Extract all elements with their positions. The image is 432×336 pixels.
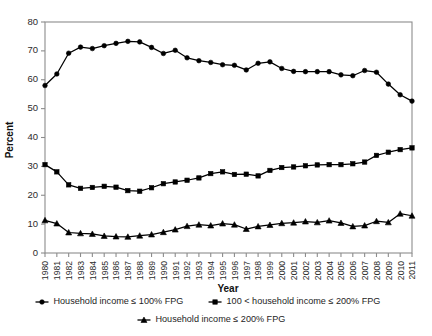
x-axis-ticks: 1980198119821983198419851986198719881989… (40, 253, 417, 280)
y-tick-label: 20 (27, 189, 38, 200)
data-point (220, 62, 225, 67)
data-point (362, 68, 367, 73)
legend-item[interactable]: Household income ≤ 100% FPG (36, 296, 184, 306)
x-tick-label: 2010 (396, 261, 406, 280)
x-tick-label: 1984 (88, 261, 98, 280)
legend-label: 100 < household income ≤ 200% FPG (227, 296, 381, 306)
data-point (137, 40, 142, 45)
data-point (256, 174, 260, 178)
legend-label: Household income ≤ 200% FPG (155, 314, 285, 324)
data-point (398, 147, 402, 151)
data-point (374, 153, 378, 157)
data-point (90, 46, 95, 51)
x-tick-label: 2003 (313, 261, 323, 280)
data-point (208, 60, 213, 65)
x-tick-label: 1980 (40, 261, 50, 280)
data-point (161, 182, 165, 186)
x-tick-label: 2008 (372, 261, 382, 280)
x-tick-label: 2002 (301, 261, 311, 280)
data-point (256, 61, 261, 66)
x-tick-label: 1998 (253, 261, 263, 280)
data-point (43, 83, 48, 88)
data-point (351, 73, 356, 78)
data-point (78, 45, 83, 50)
data-point (173, 48, 178, 53)
y-tick-label: 60 (27, 73, 38, 84)
data-point (197, 176, 201, 180)
data-point (138, 189, 142, 193)
x-tick-label: 2001 (289, 261, 299, 280)
data-point (126, 39, 131, 44)
data-point (315, 163, 319, 167)
x-tick-label: 2004 (325, 261, 335, 280)
legend-item[interactable]: 100 < household income ≤ 200% FPG (209, 296, 381, 306)
data-point (66, 183, 70, 187)
y-axis-ticks: 01020304050607080 (27, 16, 45, 258)
data-point (78, 186, 82, 190)
x-tick-label: 1989 (147, 261, 157, 280)
x-tick-label: 1990 (159, 261, 169, 280)
data-point (291, 165, 295, 169)
x-tick-label: 1986 (111, 261, 121, 280)
data-point (362, 160, 366, 164)
legend-marker (213, 300, 217, 304)
x-tick-label: 1981 (52, 261, 62, 280)
x-tick-label: 1994 (206, 261, 216, 280)
y-tick-label: 40 (27, 131, 38, 142)
data-point (232, 63, 237, 68)
data-point (55, 170, 59, 174)
data-point (327, 162, 331, 166)
x-tick-label: 1992 (182, 261, 192, 280)
data-point (374, 70, 379, 75)
data-point (339, 73, 344, 78)
y-tick-label: 70 (27, 44, 38, 55)
x-tick-label: 1995 (218, 261, 228, 280)
data-point (339, 162, 343, 166)
data-point (244, 68, 249, 73)
data-point (279, 66, 284, 71)
data-point (315, 69, 320, 74)
x-tick-label: 1987 (123, 261, 133, 280)
series-1 (43, 39, 415, 103)
x-tick-label: 1983 (76, 261, 86, 280)
data-point (268, 60, 273, 65)
data-point (102, 184, 106, 188)
data-point (280, 165, 284, 169)
x-tick-label: 2005 (336, 261, 346, 280)
x-tick-label: 2009 (384, 261, 394, 280)
data-point (126, 188, 130, 192)
series-line (45, 214, 412, 237)
y-tick-label: 0 (33, 247, 38, 258)
data-point (173, 180, 177, 184)
data-point (386, 82, 391, 87)
series-3 (42, 211, 415, 240)
y-tick-label: 30 (27, 160, 38, 171)
data-point (161, 51, 166, 56)
data-point (185, 178, 189, 182)
data-point (114, 185, 118, 189)
data-point (386, 150, 390, 154)
y-axis-title: Percent (4, 121, 15, 158)
data-point (220, 170, 224, 174)
data-point (197, 58, 202, 63)
series-line (45, 41, 412, 101)
x-tick-label: 2000 (277, 261, 287, 280)
legend-label: Household income ≤ 100% FPG (54, 296, 184, 306)
data-point (55, 72, 60, 77)
x-tick-label: 1993 (194, 261, 204, 280)
data-point (42, 217, 48, 222)
data-point (410, 99, 415, 104)
data-point (90, 185, 94, 189)
series-2 (43, 146, 414, 194)
legend-marker (40, 300, 45, 305)
data-point (43, 162, 47, 166)
x-tick-label: 2006 (348, 261, 358, 280)
data-point (303, 164, 307, 168)
chart-legend: Household income ≤ 100% FPG100 < househo… (36, 296, 381, 324)
plot-frame (45, 22, 412, 253)
y-tick-label: 80 (27, 16, 38, 27)
legend-item[interactable]: Household income ≤ 200% FPG (137, 314, 285, 324)
data-point (291, 69, 296, 74)
data-series-group (42, 39, 415, 239)
data-point (268, 168, 272, 172)
